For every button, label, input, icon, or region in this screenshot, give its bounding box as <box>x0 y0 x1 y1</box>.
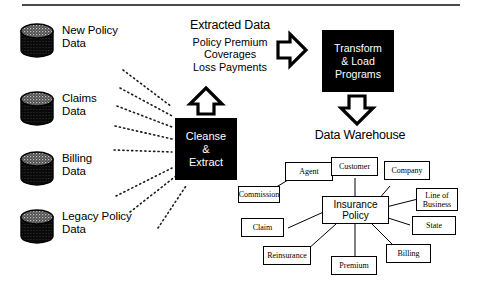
entity-box-customer[interactable]: Customer <box>331 157 378 176</box>
database-cylinder-icon <box>18 22 56 60</box>
database-cylinder-icon <box>18 90 56 128</box>
entity-box-insurance-policy[interactable]: Insurance Policy <box>322 196 389 224</box>
entity-box-line-of-business[interactable]: Line of Business <box>416 188 458 211</box>
etl-diagram-canvas: New Policy Data Claims Data Billing Data… <box>0 0 480 290</box>
entity-box-company[interactable]: Company <box>384 161 430 180</box>
database-cylinder-icon <box>18 150 56 188</box>
arrow-down-icon <box>341 96 373 124</box>
entity-box-agent[interactable]: Agent <box>285 162 333 181</box>
entity-box-commission[interactable]: Commission <box>238 186 280 203</box>
source-label-billing: Billing Data <box>62 152 92 177</box>
top-divider-rule <box>22 4 460 6</box>
entity-box-state[interactable]: State <box>412 216 456 235</box>
arrow-up-icon <box>190 88 222 114</box>
source-label-new-policy: New Policy Data <box>62 24 118 49</box>
extracted-data-title: Extracted Data <box>170 18 290 32</box>
data-warehouse-caption: Data Warehouse <box>295 128 425 142</box>
source-label-claims: Claims Data <box>62 92 97 117</box>
entity-box-reinsurance[interactable]: Reinsurance <box>263 246 311 265</box>
entity-box-premium[interactable]: Premium <box>331 256 377 275</box>
extracted-data-items: Policy Premium Coverages Loss Payments <box>166 36 294 73</box>
database-cylinder-icon <box>18 208 56 246</box>
source-label-legacy-policy: Legacy Policy Data <box>62 210 132 235</box>
transform-and-load-programs-box[interactable]: Transform & Load Programs <box>322 30 394 92</box>
cleanse-and-extract-box[interactable]: Cleanse & Extract <box>175 118 237 180</box>
entity-box-claim[interactable]: Claim <box>241 218 284 237</box>
entity-box-billing[interactable]: Billing <box>386 244 431 263</box>
